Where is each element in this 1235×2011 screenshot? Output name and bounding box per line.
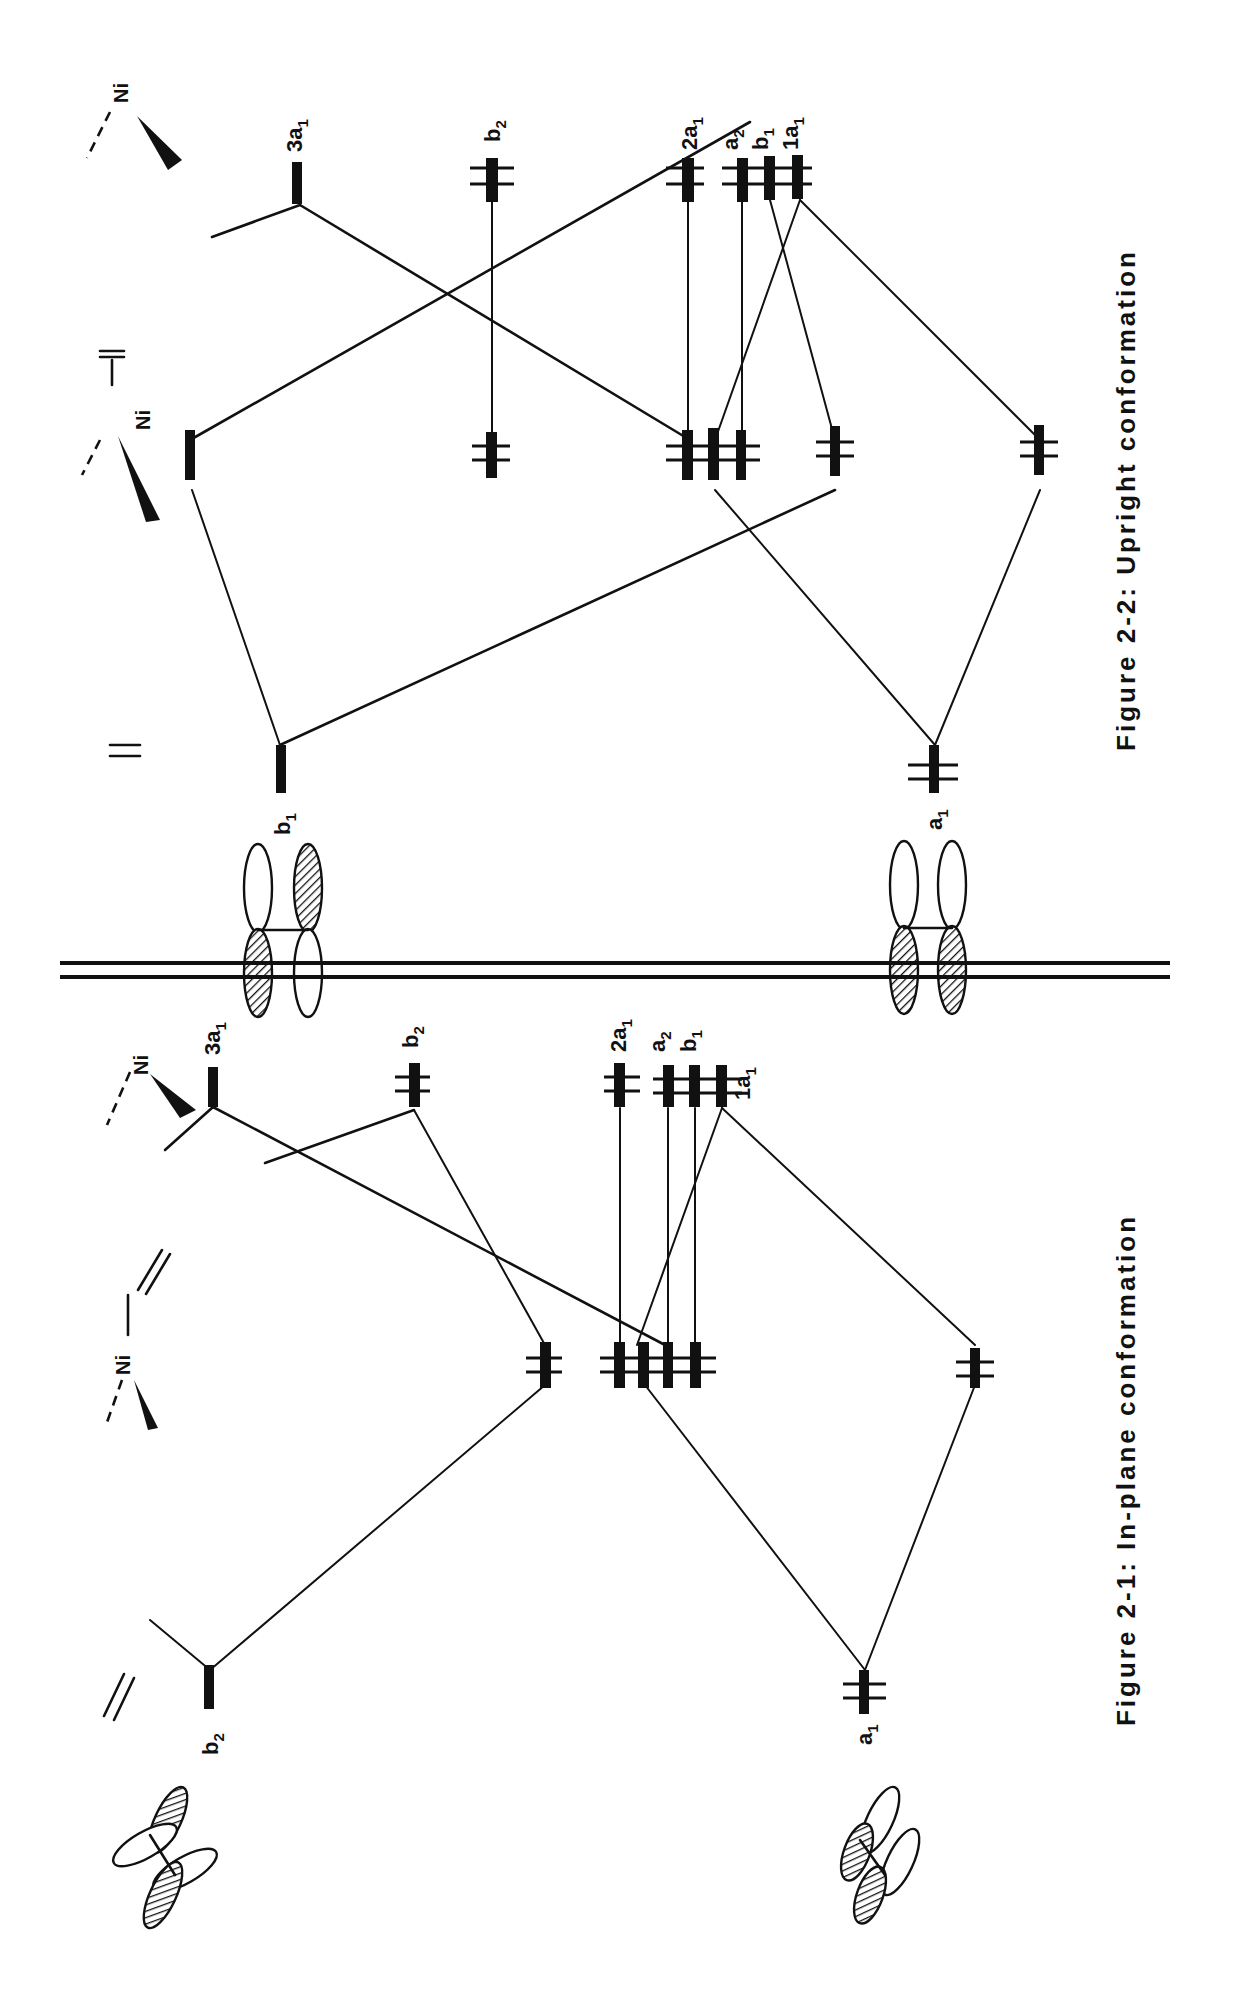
ligand-orbital-levels-upper xyxy=(276,745,958,793)
label-ligand-b2: b2 xyxy=(198,1733,227,1755)
level-1a1 xyxy=(792,155,803,199)
figure-2-1-caption: Figure 2-1: In-plane conformation xyxy=(1111,1214,1141,1726)
complex-fragment-structure: Ni xyxy=(82,351,160,522)
ni-atom-label-complex-lower: Ni xyxy=(112,1355,134,1375)
ni-fragment-structure-lower: Ni xyxy=(107,1055,196,1125)
figure-2-1-in-plane: Ni Ni xyxy=(104,1019,1141,1933)
complex-orbital-levels-lower xyxy=(526,1342,994,1388)
level-b1 xyxy=(764,156,775,200)
ni-fragment-structure: Ni xyxy=(87,83,182,170)
label-1a1: 1a1 xyxy=(778,117,807,150)
label-a2-lower: a2 xyxy=(645,1031,674,1052)
ligand-orbital-levels-lower xyxy=(204,1665,886,1714)
pi-orbital-a1-icon xyxy=(890,841,966,1014)
label-2a1-lower: 2a1 xyxy=(606,1019,635,1052)
ligand-orbital-labels-upper: b1 a1 xyxy=(270,809,951,835)
label-a2: a2 xyxy=(718,129,747,150)
correlation-lines-lower xyxy=(150,1107,975,1670)
level-a2 xyxy=(737,158,748,202)
mo-correlation-diagram-page: Ni Ni xyxy=(0,0,1235,2011)
metal-orbital-labels-lower: 3a1 b2 2a1 a2 b1 1a1 xyxy=(200,1019,759,1100)
label-b2: b2 xyxy=(480,120,509,142)
metal-orbital-levels-lower xyxy=(208,1063,742,1107)
label-b1: b1 xyxy=(748,128,777,150)
label-ligand-a1: a1 xyxy=(922,809,951,830)
level-b2 xyxy=(486,158,498,202)
label-b1-lower: b1 xyxy=(676,1030,705,1052)
label-b2-lower: b2 xyxy=(398,1026,427,1048)
complex-orbital-levels-upper xyxy=(185,425,1058,480)
ethylene-fragment-structure-lower xyxy=(104,1674,134,1720)
label-3a1: 3a1 xyxy=(282,119,311,152)
label-ligand-b1: b1 xyxy=(270,813,299,835)
metal-orbital-levels-upper xyxy=(292,155,812,204)
correlation-lines-upper xyxy=(190,122,1040,745)
label-2a1: 2a1 xyxy=(677,117,706,150)
level-3a1 xyxy=(292,162,302,204)
complex-fragment-structure-lower: Ni xyxy=(105,1250,170,1430)
ni-atom-label-complex: Ni xyxy=(132,410,154,430)
pi-orbital-a1-icon-lower xyxy=(835,1782,927,1928)
ligand-orbital-labels-lower: b2 a1 xyxy=(198,1724,881,1755)
ethylene-fragment-structure xyxy=(110,745,140,756)
ni-atom-label-lower: Ni xyxy=(130,1055,152,1075)
figure-separator xyxy=(60,963,1170,977)
label-ligand-a1-lower: a1 xyxy=(852,1724,881,1745)
pi-orbital-b1-icon xyxy=(244,844,322,1017)
label-3a1-lower: 3a1 xyxy=(200,1022,229,1055)
figure-2-2-caption: Figure 2-2: Upright conformation xyxy=(1111,249,1141,751)
figure-2-2-upright: Ni Ni xyxy=(82,83,1141,1017)
ni-atom-label: Ni xyxy=(110,83,132,103)
label-1a1-lower: 1a1 xyxy=(730,1067,759,1100)
pi-orbital-b2-icon xyxy=(107,1782,222,1933)
level-2a1 xyxy=(682,158,694,202)
